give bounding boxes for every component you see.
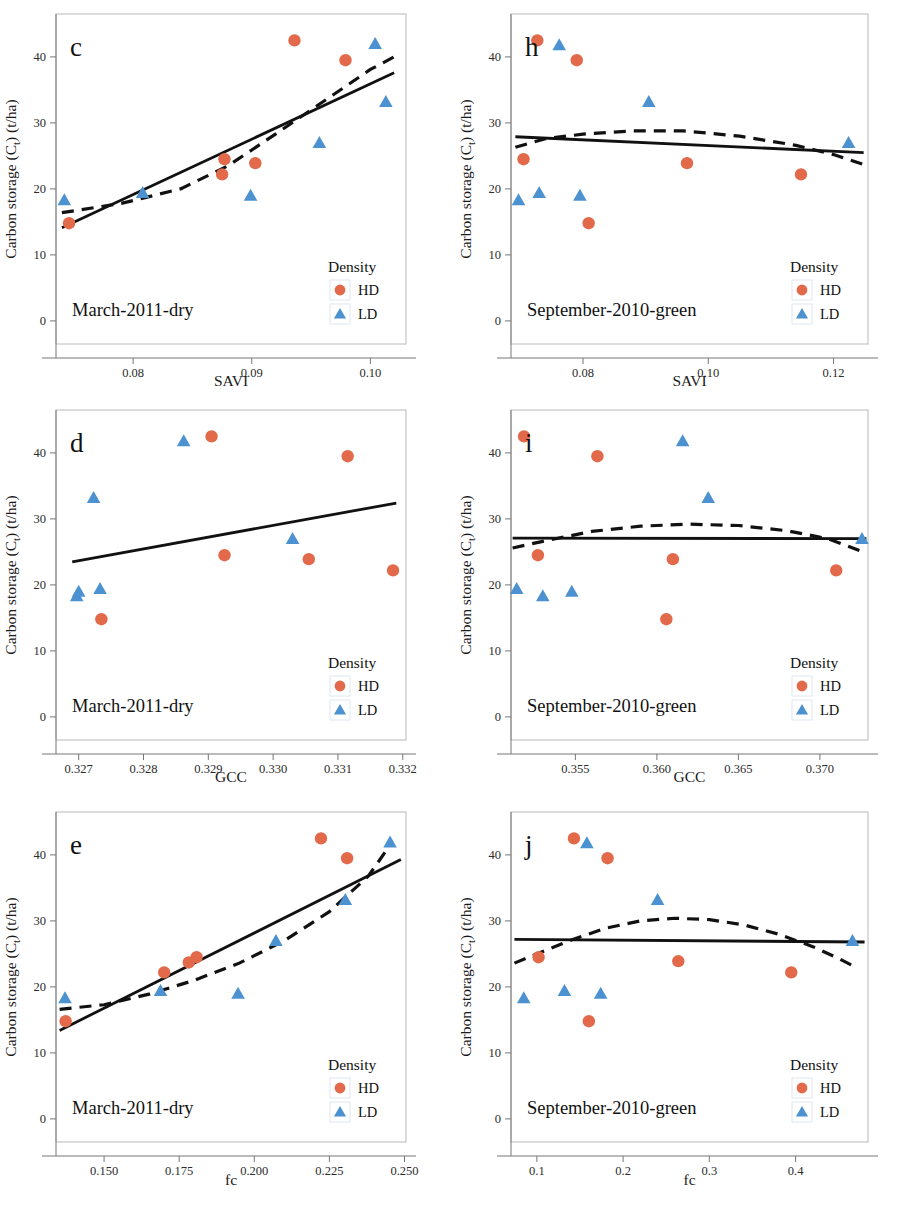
data-point-ld: [379, 95, 393, 107]
panel-letter: i: [525, 428, 533, 458]
plot-frame: [511, 14, 868, 344]
data-point-ld: [512, 193, 526, 205]
legend: DensityHDLD: [328, 1056, 379, 1122]
y-tick-label: 20: [34, 578, 47, 592]
legend-marker-hd: [797, 1083, 808, 1094]
x-axis-title: fc: [683, 1171, 695, 1188]
y-tick-label: 40: [34, 446, 47, 460]
y-tick-label: 40: [489, 848, 502, 862]
y-tick-label: 30: [34, 512, 47, 526]
data-point-ld: [231, 987, 245, 999]
fit-line-solid: [514, 939, 864, 942]
season-label: March‑2011‑dry: [72, 1098, 194, 1118]
data-point-ld: [72, 585, 86, 597]
svg-text:Carbon storage (Ct) (t/ha): Carbon storage (Ct) (t/ha): [2, 897, 22, 1056]
x-axis-title: GCC: [674, 768, 706, 785]
legend-label-ld: LD: [820, 1104, 839, 1120]
legend-title: Density: [790, 1056, 838, 1073]
data-point-ld: [536, 589, 550, 601]
y-tick-label: 10: [489, 248, 502, 262]
y-tick-label: 30: [489, 914, 502, 928]
legend: DensityHDLD: [328, 258, 379, 324]
x-tick-label: 0.08: [572, 366, 594, 380]
data-point-hd: [63, 217, 75, 229]
y-tick-label: 0: [40, 1112, 46, 1126]
data-point-ld: [269, 934, 283, 946]
y-tick-label: 10: [489, 644, 502, 658]
x-axis-title: SAVI: [214, 372, 248, 389]
data-point-ld: [701, 491, 715, 503]
legend-label-hd: HD: [358, 282, 379, 298]
chart-panel-j: 0102030400.10.20.30.4fcCarbon storage (C…: [455, 790, 903, 1208]
fit-line-solid: [60, 860, 401, 1031]
data-point-hd: [288, 34, 300, 46]
x-tick-label: 0.08: [122, 366, 144, 380]
y-tick-label: 0: [495, 1112, 501, 1126]
data-point-ld: [642, 95, 656, 107]
y-tick-label: 10: [489, 1046, 502, 1060]
svg-text:Carbon storage (Ct) (t/ha): Carbon storage (Ct) (t/ha): [2, 495, 22, 654]
data-point-ld: [58, 991, 72, 1003]
data-point-ld: [573, 189, 587, 201]
panel-letter: d: [70, 428, 84, 458]
data-point-ld: [286, 532, 300, 544]
chart-panel-e: 0102030400.1500.1750.2000.2250.250fcCarb…: [0, 790, 455, 1208]
data-point-hd: [190, 951, 202, 963]
data-point-hd: [303, 553, 315, 565]
data-point-hd: [218, 153, 230, 165]
y-tick-label: 10: [34, 644, 47, 658]
data-point-ld: [313, 136, 327, 148]
data-point-ld: [517, 991, 531, 1003]
data-point-hd: [583, 1015, 595, 1027]
y-tick-label: 10: [34, 248, 47, 262]
y-tick-label: 0: [40, 314, 46, 328]
data-point-ld: [244, 189, 258, 201]
legend-label-hd: HD: [820, 1080, 841, 1096]
x-tick-label: 0.4: [788, 1164, 804, 1178]
legend-marker-hd: [797, 681, 808, 692]
data-point-hd: [660, 613, 672, 625]
x-tick-label: 0.12: [823, 366, 845, 380]
svg-text:Carbon storage (Ct) (t/ha): Carbon storage (Ct) (t/ha): [2, 99, 22, 258]
legend-label-ld: LD: [358, 1104, 377, 1120]
legend-label-hd: HD: [358, 1080, 379, 1096]
data-point-ld: [383, 836, 397, 848]
season-label: September‑2010‑green: [527, 1098, 697, 1118]
legend: DensityHDLD: [328, 654, 379, 720]
legend-label-hd: HD: [820, 282, 841, 298]
plot-frame: [511, 812, 868, 1142]
data-point-hd: [785, 966, 797, 978]
data-point-hd: [591, 450, 603, 462]
x-tick-label: 0.328: [129, 762, 157, 776]
data-point-hd: [667, 553, 679, 565]
data-point-hd: [158, 966, 170, 978]
y-tick-label: 10: [34, 1046, 47, 1060]
y-axis-title: Carbon storage (Ct) (t/ha): [2, 897, 22, 1056]
data-point-hd: [601, 852, 613, 864]
panel-letter: c: [70, 32, 82, 62]
y-axis-title: Carbon storage (Ct) (t/ha): [2, 495, 22, 654]
x-tick-label: 0.331: [324, 762, 352, 776]
legend-label-ld: LD: [820, 702, 839, 718]
y-axis-title: Carbon storage (Ct) (t/ha): [2, 99, 22, 258]
x-tick-label: 0.250: [390, 1164, 418, 1178]
x-tick-label: 0.370: [806, 762, 834, 776]
y-tick-label: 0: [495, 314, 501, 328]
fit-line-solid: [513, 538, 867, 539]
data-point-hd: [95, 613, 107, 625]
data-point-hd: [315, 832, 327, 844]
x-tick-label: 0.1: [529, 1164, 545, 1178]
data-point-hd: [341, 450, 353, 462]
legend-label-hd: HD: [358, 678, 379, 694]
y-tick-label: 20: [34, 182, 47, 196]
y-tick-label: 30: [489, 512, 502, 526]
fit-line-dashed: [62, 57, 394, 213]
data-point-ld: [558, 984, 572, 996]
data-point-hd: [341, 852, 353, 864]
data-point-ld: [565, 585, 579, 597]
x-axis-title: SAVI: [672, 372, 706, 389]
legend-label-ld: LD: [820, 306, 839, 322]
season-label: September‑2010‑green: [527, 300, 697, 320]
x-tick-label: 0.365: [724, 762, 752, 776]
y-axis-title: Carbon storage (Ct) (t/ha): [457, 897, 477, 1056]
